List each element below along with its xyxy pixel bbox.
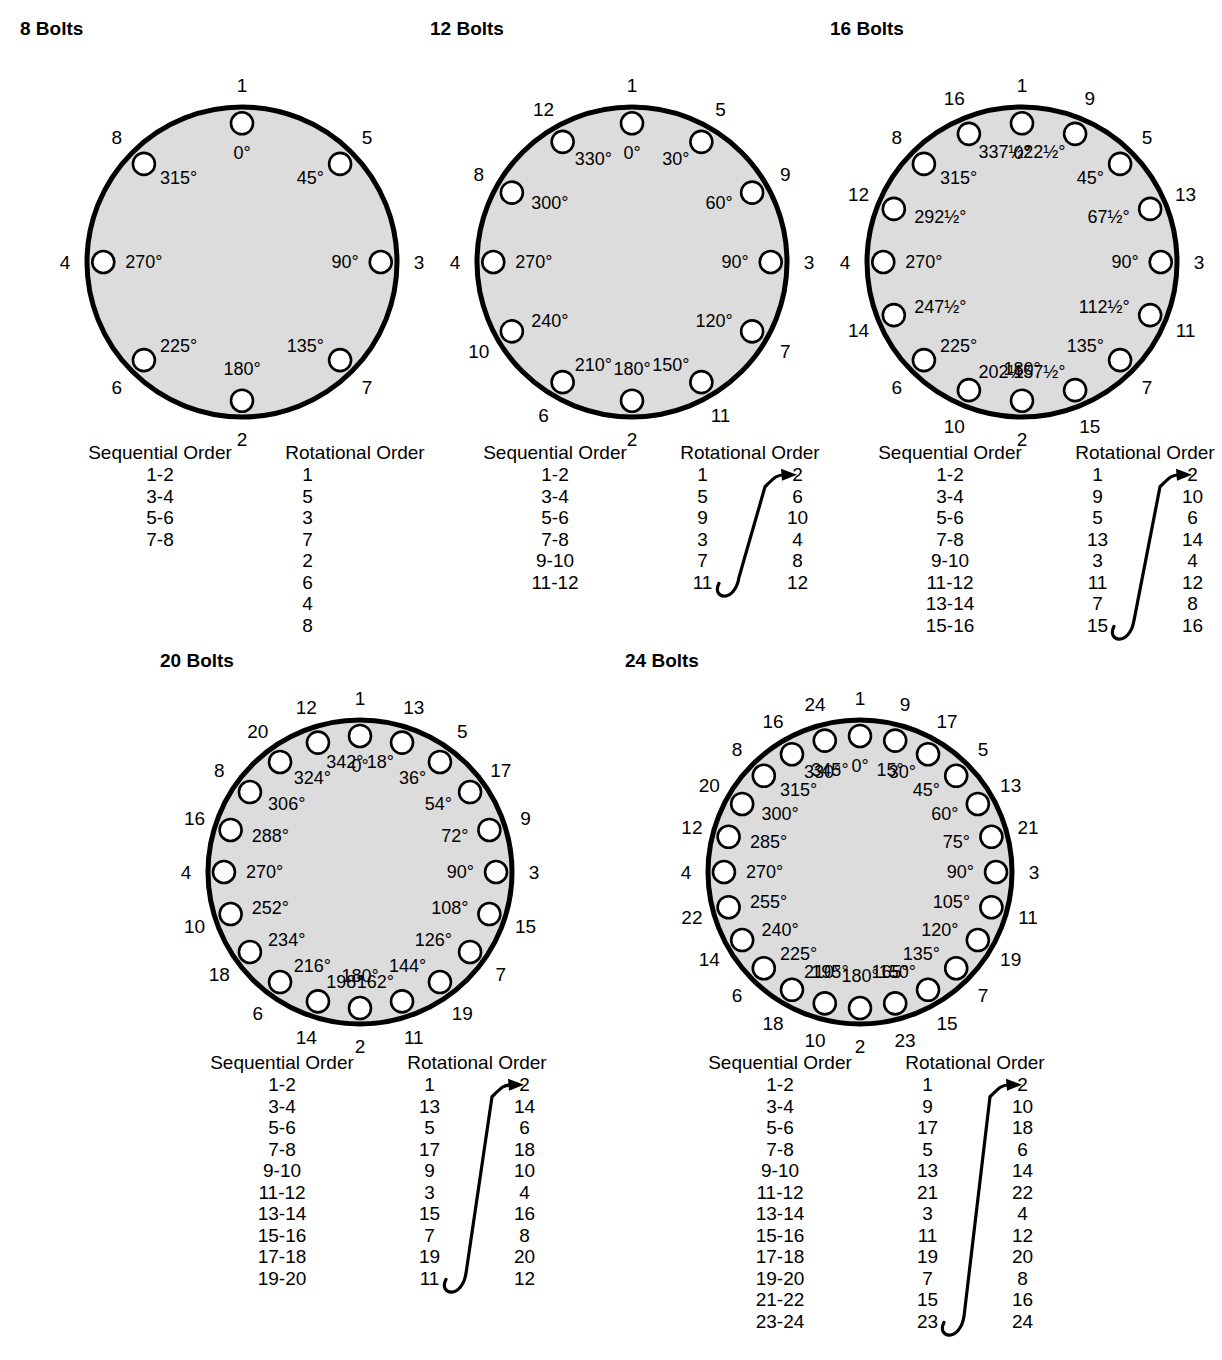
bolt-angle-label: 36° bbox=[399, 768, 426, 788]
bolt-sequence-number: 8 bbox=[214, 760, 225, 781]
sequential-order-column: Sequential Order1-23-45-67-89-1011-12 bbox=[455, 442, 655, 593]
rotational-order-cell-left: 21 bbox=[880, 1182, 975, 1204]
bolt-sequence-number: 6 bbox=[252, 1003, 263, 1024]
bolt-hole bbox=[872, 251, 894, 273]
bolt-angle-label: 270° bbox=[125, 252, 162, 272]
rotational-order-cell-left: 5 bbox=[880, 1139, 975, 1161]
bolt-angle-label: 150° bbox=[652, 355, 689, 375]
sequential-order-cell: 3-4 bbox=[455, 486, 655, 508]
sequential-order-cell: 7-8 bbox=[182, 1139, 382, 1161]
bolt-sequence-number: 21 bbox=[1017, 817, 1038, 838]
bolt-hole bbox=[913, 153, 935, 175]
bolt-position: 390° bbox=[447, 861, 539, 883]
bolt-angle-label: 225° bbox=[780, 944, 817, 964]
order-table: Sequential Order1-23-45-67-89-1011-12Rot… bbox=[455, 442, 845, 593]
rotational-order-cell-left: 9 bbox=[655, 507, 750, 529]
bolt-hole bbox=[945, 957, 967, 979]
rotational-order-cell-left: 11 bbox=[1050, 572, 1145, 594]
bolt-sequence-number: 8 bbox=[732, 739, 743, 760]
bolt-angle-label: 270° bbox=[746, 862, 783, 882]
bolt-sequence-number: 8 bbox=[892, 127, 903, 148]
bolt-hole bbox=[731, 929, 753, 951]
bolt-sequence-number: 19 bbox=[1000, 949, 1021, 970]
rotational-order-cell-left: 15 bbox=[880, 1289, 975, 1311]
rotational-order-row: 1112 bbox=[655, 572, 845, 594]
bolt-sequence-number: 12 bbox=[848, 184, 869, 205]
bolt-hole bbox=[307, 990, 329, 1012]
rotational-order-cell-right: 12 bbox=[750, 572, 845, 594]
bolt-sequence-number: 7 bbox=[780, 341, 791, 362]
rotational-order-row: 78 bbox=[655, 550, 845, 572]
rotational-order-row: 34 bbox=[1050, 550, 1222, 572]
bolt-sequence-number: 3 bbox=[1194, 252, 1205, 273]
bolt-sequence-number: 5 bbox=[978, 739, 989, 760]
sequential-order-cell: 19-20 bbox=[182, 1268, 382, 1290]
rotational-order-column: Rotational Order12910561314341112781516 bbox=[1050, 442, 1222, 636]
sequential-order-cell: 13-14 bbox=[850, 593, 1050, 615]
bolt-hole bbox=[945, 765, 967, 787]
sequential-order-cell: 7-8 bbox=[680, 1139, 880, 1161]
rotational-order-cell-left: 19 bbox=[880, 1246, 975, 1268]
bolt-hole bbox=[760, 251, 782, 273]
bolt-sequence-number: 17 bbox=[490, 760, 511, 781]
bolt-hole bbox=[1064, 379, 1086, 401]
bolt-sequence-number: 11 bbox=[404, 1027, 424, 1048]
bolt-angle-label: 90° bbox=[721, 252, 748, 272]
bolt-hole bbox=[459, 781, 481, 803]
bolt-angle-label: 234° bbox=[268, 930, 305, 950]
rotational-order-cell-right: 4 bbox=[1145, 550, 1222, 572]
bolt-hole bbox=[391, 990, 413, 1012]
rotational-order-row: 1516 bbox=[880, 1289, 1070, 1311]
bolt-angle-label: 0° bbox=[233, 143, 250, 163]
bolt-position: 4270° bbox=[681, 861, 783, 883]
bolt-sequence-number: 1 bbox=[627, 75, 638, 96]
bolt-hole bbox=[269, 751, 291, 773]
sequential-order-cell: 15-16 bbox=[182, 1225, 382, 1247]
bolt-position: 10° bbox=[231, 75, 253, 163]
rotational-order-cell: 7 bbox=[260, 529, 355, 551]
sequential-order-cell: 19-20 bbox=[680, 1268, 880, 1290]
rotational-order-cell-right: 2 bbox=[1145, 464, 1222, 486]
bolt-sequence-number: 5 bbox=[1142, 127, 1153, 148]
rotational-order-cell-left: 13 bbox=[1050, 529, 1145, 551]
bolt-sequence-number: 10 bbox=[468, 341, 489, 362]
rotational-order-cell-right: 18 bbox=[975, 1117, 1070, 1139]
rotational-order-row: 12 bbox=[655, 464, 845, 486]
rotational-order-cell-left: 15 bbox=[1050, 615, 1145, 637]
rotational-order-cell-left: 13 bbox=[382, 1096, 477, 1118]
bolt-sequence-number: 1 bbox=[1017, 75, 1028, 96]
bolt-hole bbox=[967, 793, 989, 815]
sequential-order-cell: 3-4 bbox=[850, 486, 1050, 508]
bolt-sequence-number: 16 bbox=[184, 808, 205, 829]
bolt-sequence-number: 1 bbox=[855, 688, 866, 709]
rotational-order-row: 1920 bbox=[880, 1246, 1070, 1268]
sequential-order-column: Sequential Order1-23-45-67-89-1011-1213-… bbox=[850, 442, 1050, 636]
bolt-angle-label: 126° bbox=[415, 930, 452, 950]
bolt-angle-label: 300° bbox=[762, 804, 799, 824]
bolt-angle-label: 75° bbox=[943, 832, 970, 852]
bolt-angle-label: 337½° bbox=[979, 142, 1031, 162]
bolt-angle-label: 270° bbox=[905, 252, 942, 272]
bolt-hole bbox=[849, 997, 871, 1019]
bolt-sequence-number: 1 bbox=[237, 75, 248, 96]
panel-title: 20 Bolts bbox=[160, 650, 234, 672]
rotational-order-cell-left: 3 bbox=[880, 1203, 975, 1225]
bolt-hole bbox=[1109, 153, 1131, 175]
bolt-sequence-number: 3 bbox=[529, 862, 540, 883]
bolt-angle-label: 54° bbox=[425, 794, 452, 814]
bolt-sequence-number: 13 bbox=[403, 697, 424, 718]
rotational-order-cell-left: 13 bbox=[880, 1160, 975, 1182]
bolt-hole bbox=[213, 861, 235, 883]
bolt-position: 4270° bbox=[60, 251, 163, 273]
rotational-order-cell-left: 11 bbox=[655, 572, 750, 594]
rotational-order-row: 1516 bbox=[1050, 615, 1222, 637]
sequential-order-cell: 3-4 bbox=[60, 486, 260, 508]
rotational-order-cell-right: 4 bbox=[477, 1182, 572, 1204]
bolt-hole bbox=[391, 732, 413, 754]
bolt-sequence-number: 7 bbox=[978, 985, 989, 1006]
bolt-hole bbox=[220, 819, 242, 841]
bolt-sequence-number: 17 bbox=[936, 711, 957, 732]
bolt-angle-label: 210° bbox=[804, 962, 841, 982]
bolt-angle-label: 90° bbox=[447, 862, 474, 882]
bolt-sequence-number: 3 bbox=[1029, 862, 1040, 883]
